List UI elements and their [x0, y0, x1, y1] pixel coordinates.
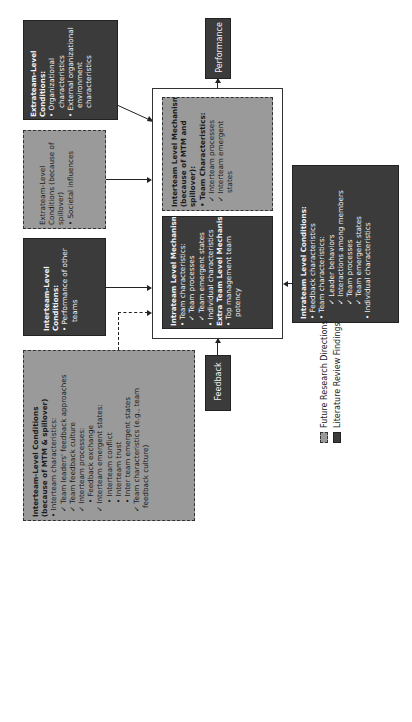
list-item: • Individual characteristics — [206, 216, 215, 326]
legend-label-future: Future Research Directions — [320, 320, 329, 428]
interteam-mechanisms-box: Interteam Level Mechanisms (because of M… — [162, 97, 273, 211]
list-item: teams — [70, 248, 79, 331]
list-item: • External organizational — [66, 27, 75, 117]
box-title: Interteam-Level — [42, 248, 51, 331]
feedback-label: Feedback — [214, 357, 223, 407]
intrateam-mechanisms-box: Intrateam Level Mechanisms: • Team chara… — [162, 216, 273, 329]
legend-swatch-literature — [333, 432, 341, 443]
list-item: characteristics — [84, 27, 93, 117]
list-item: ✓ Interteam emergent — [216, 97, 225, 207]
extrateam-spillover-box: Extrateam-Level Conditions (because of s… — [23, 130, 106, 229]
list-item: states — [225, 97, 234, 207]
list-item: ✓ Team emergent states — [354, 190, 363, 319]
arrowhead-icon — [283, 281, 288, 287]
interteam-conditions-box: Interteam-Level Conditions: • Performanc… — [23, 238, 106, 336]
box-title: Interteam Level Mechanisms — [170, 97, 179, 207]
box-title: (because of MTM and — [179, 97, 188, 207]
feedback-box: Feedback — [205, 355, 231, 411]
performance-label: Performance — [215, 20, 224, 76]
list-item: characteristics — [57, 27, 66, 117]
performance-box: Performance — [205, 18, 231, 79]
list-item: ✓ Leader behaviors — [327, 190, 336, 319]
arrow-interteam-to-center — [106, 287, 148, 288]
interteam-mtm-conditions-box: Interteam-Level Conditions (because of M… — [23, 350, 195, 521]
box-title: spillover): — [188, 97, 197, 207]
list-item: • Interteam trust — [114, 375, 123, 517]
list-item: ✓ Team processes — [345, 190, 354, 319]
list-item: • Inter team emergent states — [123, 375, 132, 517]
list-item: ✓ Team processes — [187, 216, 196, 326]
dashed-connector — [118, 312, 148, 313]
list-item: • Team characteristics: — [178, 216, 187, 326]
list-item: • Interteam conflict — [105, 375, 114, 517]
list-item: ✓ Interteam emergent states: — [95, 375, 104, 517]
list-item: environment — [75, 27, 84, 117]
list-item: • Top management team — [224, 216, 233, 326]
list-item: • Individual characteristics — [363, 190, 372, 319]
box-title: Extrateam-Level — [38, 143, 47, 225]
list-item: ✓ Team characteristics (e.g., team — [132, 375, 141, 517]
box-title: spillover) — [56, 143, 65, 225]
box-subtitle: Extra Team Level Mechanism: — [215, 216, 224, 326]
box-title: Conditions: — [51, 248, 60, 331]
list-item: ✓ Team leaders' feedback approaches — [59, 375, 68, 517]
list-item: ✓ Interactions among members — [336, 190, 345, 319]
list-item: • Team Characteristics: — [198, 97, 207, 207]
list-item: ✓ Team emergent states — [197, 216, 206, 326]
box-title: Conditions (because of — [47, 143, 56, 225]
dashed-connector — [118, 312, 119, 350]
list-item: ✓ Interteam processes: — [77, 375, 86, 517]
list-item: • Organizational — [47, 27, 56, 117]
box-title: Interteam-Level Conditions — [31, 375, 40, 517]
list-item: feedback culture) — [141, 375, 150, 517]
box-title: Intrateam Level Mechanisms: — [169, 216, 178, 326]
extrateam-title-line2: Conditions: — [38, 27, 47, 117]
legend-swatch-future — [320, 432, 328, 443]
list-item: ✓ Team feedback culture — [68, 375, 77, 517]
legend-label-literature: Literature Review Findings — [333, 322, 342, 428]
extrateam-title-1: Extrateam-Level — [29, 27, 38, 117]
arrowhead-icon — [215, 338, 221, 343]
extrateam-conditions-box: Extrateam-Level Extrateam-Level Conditio… — [23, 20, 118, 120]
list-item: • Feedback exchange — [86, 375, 95, 517]
list-item: potency — [233, 216, 242, 326]
box-title: (because of MTM & spillover) — [40, 375, 49, 517]
list-item: ✓ Interteam processes — [207, 97, 216, 207]
list-item: • Interteam characteristics: — [49, 375, 58, 517]
list-item: • Societal influences — [66, 143, 75, 225]
list-item: • Team characteristics: — [317, 190, 326, 319]
arrow-spillover-to-center — [106, 179, 148, 180]
box-title: Intrateam Level Conditions: — [299, 190, 308, 319]
arrowhead-icon — [215, 78, 221, 83]
list-item: • Feedback characteristics — [308, 190, 317, 319]
list-item: • Performance of other — [60, 248, 69, 331]
intrateam-conditions-box: Intrateam Level Conditions: • Feedback c… — [292, 165, 399, 323]
